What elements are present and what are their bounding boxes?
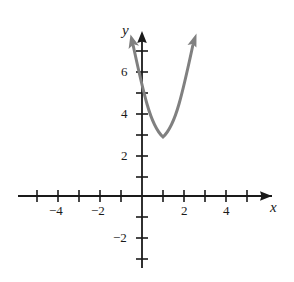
y-tick-label-6: 6 — [121, 64, 128, 80]
x-tick-label-neg2: −2 — [91, 203, 105, 219]
y-tick-label-neg2: −2 — [113, 230, 127, 246]
y-axis-label: y — [122, 22, 129, 39]
x-tick-label-neg4: −4 — [49, 203, 63, 219]
coordinate-plane-svg — [0, 0, 294, 282]
x-tick-label-4: 4 — [223, 203, 230, 219]
y-tick-label-4: 4 — [121, 106, 128, 122]
y-axis-arrowhead — [137, 31, 147, 43]
x-axis-label: x — [270, 199, 277, 216]
x-tick-label-2: 2 — [181, 203, 188, 219]
graph-figure: −4 −2 2 4 6 4 2 −2 x y — [0, 0, 294, 282]
y-tick-label-2: 2 — [121, 148, 128, 164]
